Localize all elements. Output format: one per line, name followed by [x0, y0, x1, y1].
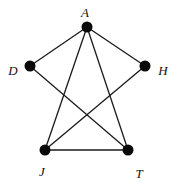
- edge-a-h: [87, 27, 145, 66]
- node-label-t: T: [135, 166, 143, 181]
- node-d: [25, 61, 36, 72]
- nodes-group: [25, 22, 151, 156]
- edge-a-t: [87, 27, 128, 150]
- edges-group: [30, 27, 145, 150]
- node-h: [140, 61, 151, 72]
- node-t: [123, 145, 134, 156]
- node-label-d: D: [7, 63, 18, 78]
- graph-diagram: ADHJT: [0, 0, 180, 182]
- edge-d-t: [30, 66, 128, 150]
- node-a: [82, 22, 93, 33]
- node-label-j: J: [39, 164, 46, 179]
- edge-a-d: [30, 27, 87, 66]
- node-label-h: H: [157, 63, 168, 78]
- node-label-a: A: [80, 5, 89, 20]
- node-j: [40, 145, 51, 156]
